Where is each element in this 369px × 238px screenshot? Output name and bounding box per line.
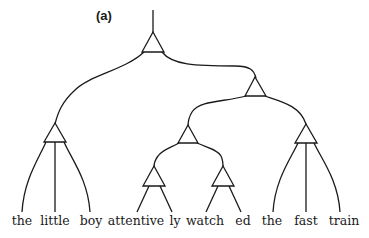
word-little: little bbox=[40, 213, 69, 228]
tree-diagram: (a) the little boy attentive ly watch ed… bbox=[0, 0, 369, 238]
node-root bbox=[142, 32, 164, 52]
edge-np2-the bbox=[273, 143, 298, 212]
word-fast: fast bbox=[294, 213, 318, 228]
edge-root-vp bbox=[162, 52, 256, 78]
edge-vp-vgroup bbox=[188, 96, 246, 126]
edge-root-np1 bbox=[55, 52, 144, 124]
word-boy: boy bbox=[80, 213, 104, 228]
word-ed: ed bbox=[235, 213, 250, 228]
node-adv bbox=[143, 166, 165, 186]
word-watch: watch bbox=[186, 213, 224, 228]
edge-np2-train bbox=[314, 143, 340, 212]
word-attentive: attentive bbox=[108, 213, 164, 228]
edge-np1-the bbox=[22, 142, 46, 212]
node-verb-group bbox=[178, 125, 198, 143]
node-vp bbox=[245, 77, 266, 96]
figure-label: (a) bbox=[96, 8, 112, 23]
edge-adv-attentive bbox=[137, 186, 149, 212]
word-ly: ly bbox=[169, 213, 181, 228]
node-np1 bbox=[44, 123, 66, 142]
word-the-1: the bbox=[12, 213, 32, 228]
node-np2 bbox=[295, 124, 317, 143]
edge-vp-np2 bbox=[265, 96, 306, 124]
word-the-2: the bbox=[262, 213, 282, 228]
node-verb bbox=[212, 166, 234, 186]
edge-np1-boy bbox=[64, 142, 90, 212]
edge-verb-watch bbox=[206, 186, 218, 212]
edge-adv-ly bbox=[160, 186, 172, 212]
edge-verb-ed bbox=[229, 186, 241, 212]
word-train: train bbox=[329, 213, 360, 228]
edge-vg-adv bbox=[154, 143, 179, 167]
edge-vg-verb bbox=[197, 143, 223, 167]
